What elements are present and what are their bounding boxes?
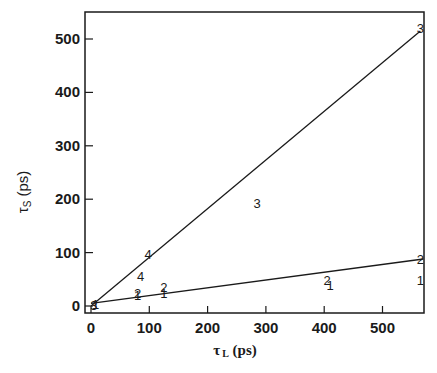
data-point-label: 2 bbox=[134, 286, 141, 301]
y-tick-label: 300 bbox=[55, 137, 80, 154]
data-point-label: 3 bbox=[254, 196, 261, 211]
y-tick-label: 100 bbox=[55, 244, 80, 261]
data-point-label: 2 bbox=[417, 252, 424, 267]
x-tick-label: 300 bbox=[253, 319, 278, 336]
x-tick-label: 500 bbox=[370, 319, 395, 336]
y-tick-label: 0 bbox=[72, 297, 80, 314]
y-tick-label: 500 bbox=[55, 30, 80, 47]
data-point-label: 2 bbox=[160, 280, 167, 295]
axis-tick-labels: 01002003004005000100200300400500 bbox=[55, 30, 395, 336]
data-point-label: 2 bbox=[323, 273, 330, 288]
fit-lines bbox=[91, 31, 423, 306]
y-tick-label: 400 bbox=[55, 83, 80, 100]
data-point-label: 4 bbox=[137, 269, 144, 284]
data-point-label: 4 bbox=[145, 247, 152, 262]
axis-ticks bbox=[85, 39, 383, 313]
data-point-label: 1 bbox=[417, 273, 424, 288]
y-tick-label: 200 bbox=[55, 190, 80, 207]
x-axis-title: τL (ps) bbox=[213, 342, 257, 359]
data-point-label: 3 bbox=[90, 298, 97, 313]
fit-line bbox=[91, 31, 420, 306]
chart: 01002003004005000100200300400500 1111122… bbox=[0, 0, 437, 373]
x-tick-label: 100 bbox=[137, 319, 162, 336]
data-point-label: 3 bbox=[417, 21, 424, 36]
y-axis-title: τS (ps) bbox=[14, 171, 33, 214]
x-tick-label: 200 bbox=[195, 319, 220, 336]
x-tick-label: 400 bbox=[312, 319, 337, 336]
x-tick-label: 0 bbox=[87, 319, 95, 336]
